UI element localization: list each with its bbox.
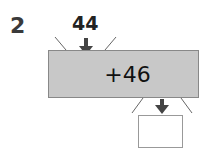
input-value: 44 xyxy=(72,12,98,34)
down-arrow-icon xyxy=(155,99,169,114)
function-machine: +46 xyxy=(48,50,199,98)
question-number: 2 xyxy=(10,13,25,38)
operation-label: +46 xyxy=(104,62,150,87)
answer-box[interactable] xyxy=(138,115,183,148)
